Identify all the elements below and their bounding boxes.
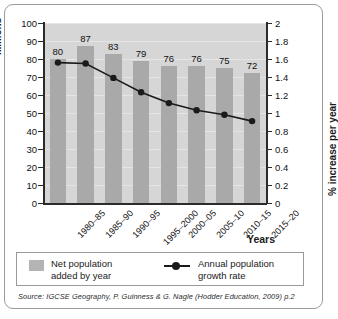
legend-line-label-line2: growth rate bbox=[198, 270, 274, 282]
bar-value-label: 76 bbox=[191, 53, 202, 64]
left-axis-tick bbox=[38, 41, 44, 42]
right-axis-title: % increase per year bbox=[327, 102, 338, 196]
left-axis-tick bbox=[38, 167, 44, 168]
right-axis-tick-label: 0.2 bbox=[275, 180, 288, 191]
bar bbox=[105, 54, 122, 203]
right-axis-tick-label: 0.4 bbox=[275, 162, 288, 173]
left-axis-tick bbox=[38, 203, 44, 204]
right-axis-tick-label: 0.8 bbox=[275, 126, 288, 137]
left-axis-tick bbox=[38, 95, 44, 96]
right-axis-tick-label: 0.6 bbox=[275, 144, 288, 155]
right-axis-tick bbox=[266, 77, 272, 78]
right-axis-tick bbox=[266, 41, 272, 42]
bar-value-label: 87 bbox=[80, 33, 91, 44]
chart-legend: Net population added by year Annual popu… bbox=[16, 252, 304, 286]
bar bbox=[50, 59, 67, 203]
left-axis-tick bbox=[38, 23, 44, 24]
right-axis-tick-label: 2 bbox=[275, 18, 280, 29]
left-axis-tick-label: 90 bbox=[26, 36, 37, 47]
left-axis-tick-label: 20 bbox=[26, 162, 37, 173]
right-axis-tick bbox=[266, 167, 272, 168]
right-axis-tick bbox=[266, 203, 272, 204]
right-axis-tick-label: 1.6 bbox=[275, 54, 288, 65]
plot-area bbox=[44, 23, 266, 203]
gridline bbox=[44, 23, 266, 24]
bar bbox=[216, 68, 233, 203]
legend-line-dot-icon bbox=[172, 262, 180, 270]
legend-bar-entry: Net population added by year bbox=[51, 258, 112, 281]
left-axis-tick-label: 40 bbox=[26, 126, 37, 137]
bar bbox=[161, 66, 178, 203]
right-axis-tick bbox=[266, 23, 272, 24]
bar-value-label: 80 bbox=[53, 46, 64, 57]
left-axis-tick bbox=[38, 59, 44, 60]
left-axis-tick-label: 50 bbox=[26, 108, 37, 119]
x-axis-line bbox=[43, 203, 267, 205]
left-axis-tick bbox=[38, 77, 44, 78]
bar bbox=[133, 61, 150, 203]
legend-bar-swatch bbox=[29, 260, 44, 271]
left-axis-tick-label: 0 bbox=[32, 198, 37, 209]
left-axis-tick-label: 80 bbox=[26, 54, 37, 65]
x-axis-tick-label: 2005–10 bbox=[214, 208, 246, 240]
left-axis-title: Millions bbox=[0, 18, 3, 55]
right-axis-tick bbox=[266, 95, 272, 96]
source-caption: Source: IGCSE Geography, P. Guinness & G… bbox=[18, 292, 318, 301]
left-axis-tick-label: 30 bbox=[26, 144, 37, 155]
bar-value-label: 79 bbox=[136, 48, 147, 59]
right-axis-tick-label: 1.2 bbox=[275, 90, 288, 101]
left-axis-tick bbox=[38, 185, 44, 186]
left-axis-tick bbox=[38, 113, 44, 114]
right-axis-tick-label: 0 bbox=[275, 198, 280, 209]
legend-line-entry: Annual population growth rate bbox=[198, 258, 274, 281]
left-axis-tick-label: 60 bbox=[26, 90, 37, 101]
bar bbox=[77, 46, 94, 203]
x-axis-tick-label: 1985–90 bbox=[103, 208, 135, 240]
left-axis-tick-label: 70 bbox=[26, 72, 37, 83]
left-axis-tick-label: 100 bbox=[21, 18, 37, 29]
left-axis-tick bbox=[38, 131, 44, 132]
right-axis-tick bbox=[266, 149, 272, 150]
bar-value-label: 72 bbox=[247, 60, 258, 71]
left-axis-tick bbox=[38, 149, 44, 150]
x-axis-tick-label: 1990–95 bbox=[131, 208, 163, 240]
legend-bar-label-line2: added by year bbox=[51, 270, 112, 282]
bar-value-label: 76 bbox=[164, 53, 175, 64]
legend-line-label-line1: Annual population bbox=[198, 258, 274, 270]
gridline bbox=[44, 41, 266, 42]
x-axis-title: Years bbox=[247, 233, 275, 245]
right-axis-tick bbox=[266, 131, 272, 132]
bar bbox=[244, 73, 261, 203]
right-axis-tick bbox=[266, 113, 272, 114]
bar-value-label: 75 bbox=[219, 55, 230, 66]
right-axis-tick-label: 1 bbox=[275, 108, 280, 119]
right-axis-tick-label: 1.8 bbox=[275, 36, 288, 47]
bar bbox=[188, 66, 205, 203]
right-axis-tick bbox=[266, 185, 272, 186]
x-axis-tick-label: 1980–85 bbox=[75, 208, 107, 240]
right-axis-tick bbox=[266, 59, 272, 60]
legend-bar-label-line1: Net population bbox=[51, 258, 112, 270]
left-axis-tick-label: 10 bbox=[26, 180, 37, 191]
right-axis-tick-label: 1.4 bbox=[275, 72, 288, 83]
bar-value-label: 83 bbox=[108, 41, 119, 52]
